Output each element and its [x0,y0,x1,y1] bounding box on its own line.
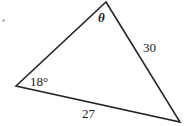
edge-speck-artifact [2,19,5,22]
triangle-figure: θ 30 18° 27 [0,0,184,126]
left-angle-label: 18° [30,75,48,88]
bottom-side-length-label: 27 [82,107,95,120]
right-side-length-label: 30 [143,41,156,54]
apex-angle-label: θ [98,11,105,24]
